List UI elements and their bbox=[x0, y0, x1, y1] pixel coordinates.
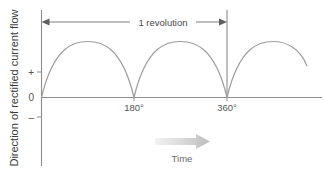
x-axis-label-360: 360° bbox=[217, 102, 237, 113]
y-axis-title: Direction of rectified current flow bbox=[8, 9, 20, 166]
waveform-arch-3-clipped bbox=[227, 42, 307, 98]
waveform-chart-svg: 1 revolution + 0 – 180° 360° Direction o… bbox=[0, 0, 324, 175]
revolution-arrowhead-left-icon bbox=[42, 19, 50, 26]
revolution-annotation-label: 1 revolution bbox=[138, 17, 187, 28]
y-axis bbox=[37, 10, 42, 166]
waveform-arch-2 bbox=[134, 42, 227, 98]
x-axis-label-180: 180° bbox=[124, 102, 144, 113]
y-axis-zero-marker: 0 bbox=[28, 92, 34, 103]
waveform-arch-1 bbox=[42, 42, 135, 98]
x-axis bbox=[42, 98, 323, 102]
revolution-arrowhead-right-icon bbox=[219, 19, 227, 26]
rectified-current-waveform-figure: 1 revolution + 0 – 180° 360° Direction o… bbox=[0, 0, 324, 175]
y-axis-positive-marker: + bbox=[28, 67, 34, 78]
rectified-waveform-curve bbox=[42, 42, 308, 98]
revolution-annotation: 1 revolution bbox=[42, 17, 228, 28]
x-axis-title: Time bbox=[172, 153, 193, 164]
y-axis-negative-marker: – bbox=[28, 112, 34, 123]
time-direction-arrow-icon bbox=[155, 134, 210, 149]
time-arrow-shape bbox=[155, 134, 210, 149]
